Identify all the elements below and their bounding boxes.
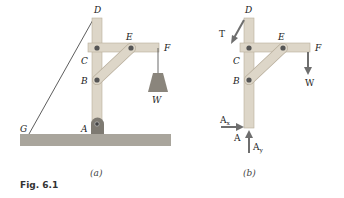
label-c: C (81, 56, 88, 66)
label-ax: Ax (219, 115, 231, 126)
pin-c (94, 45, 99, 50)
label-f: F (163, 43, 171, 53)
ground (20, 134, 171, 146)
label-g: G (20, 124, 27, 134)
force-w-arrowhead (304, 67, 312, 75)
pin-c-fbd (246, 45, 251, 50)
force-t-arrowhead (231, 35, 238, 44)
panel-b: D E F C B T W A Ax Ay (b) (219, 5, 322, 178)
caption-b: (b) (243, 168, 256, 178)
label-t-fbd: T (219, 29, 225, 39)
pin-a (95, 122, 99, 126)
label-w-fbd: W (305, 78, 315, 88)
label-c-fbd: C (233, 56, 240, 66)
force-ay-arrowhead (245, 130, 253, 138)
label-a: A (80, 124, 88, 134)
pin-e-fbd (280, 45, 285, 50)
label-e: E (125, 32, 133, 42)
label-d: D (93, 5, 101, 15)
label-e-fbd: E (277, 32, 285, 42)
label-ay: Ay (252, 142, 264, 154)
force-ax-arrowhead (236, 123, 244, 131)
force-t-shaft (234, 20, 244, 38)
panel-a: D E F C B W G A (a) (20, 5, 171, 178)
figure-caption: Fig. 6.1 (20, 180, 58, 190)
label-b-fbd: B (232, 76, 240, 86)
label-a-fbd: A (233, 133, 241, 143)
pin-b-fbd (246, 77, 251, 82)
label-d-fbd: D (244, 5, 252, 15)
pin-b (94, 77, 99, 82)
label-f-fbd: F (314, 43, 322, 53)
pin-e (128, 45, 133, 50)
label-b: B (80, 76, 88, 86)
weight-w (148, 73, 168, 92)
caption-a: (a) (90, 168, 103, 178)
figure-canvas: D E F C B W G A (a) D E (0, 0, 344, 198)
label-w: W (152, 95, 162, 105)
